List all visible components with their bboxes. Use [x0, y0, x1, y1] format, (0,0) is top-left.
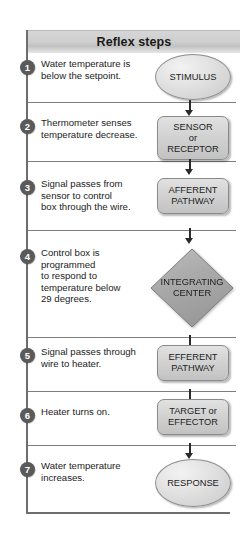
flow-shape-integrating-center-label: INTEGRATING CENTER — [148, 246, 236, 330]
row-separator-3 — [28, 230, 236, 231]
step-text-5-line-1: Signal passes through — [41, 346, 149, 358]
step-text-3-line-2: sensor to control — [41, 190, 149, 202]
flow-shape-efferent-pathway-line-2: PATHWAY — [171, 363, 215, 374]
flow-shape-sensor-receptor-line-3: RECEPTOR — [167, 144, 219, 155]
flow-shape-afferent-pathway-line-1: AFFERENT — [168, 185, 217, 196]
step-text-6: Heater turns on. — [41, 406, 149, 418]
step-text-4-line-2: programmed — [41, 259, 149, 271]
reflex-steps-diagram: Reflex steps 1 Water temperature is belo… — [0, 0, 248, 534]
step-text-3: Signal passes from sensor to control box… — [41, 178, 149, 213]
step-badge-2: 2 — [20, 119, 35, 134]
flow-shape-target-effector: TARGET or EFFECTOR — [157, 399, 229, 435]
step-badge-4: 4 — [20, 249, 35, 264]
step-badge-1: 1 — [20, 60, 35, 75]
frame-bottom-rail — [26, 512, 230, 514]
step-text-3-line-3: box through the wire. — [41, 201, 149, 213]
flow-shape-integrating-center: INTEGRATING CENTER — [148, 246, 236, 330]
step-badge-5: 5 — [20, 348, 35, 363]
step-text-2-line-1: Thermometer senses — [41, 117, 149, 129]
flow-shape-stimulus: STIMULUS — [155, 54, 231, 100]
step-text-4-line-3: to respond to — [41, 270, 149, 282]
flow-shape-sensor-receptor-line-2: or — [189, 133, 197, 144]
step-text-1: Water temperature is below the setpoint. — [41, 58, 149, 81]
step-text-1-line-1: Water temperature is — [41, 58, 149, 70]
flow-shape-target-effector-line-2: EFFECTOR — [168, 417, 218, 428]
arrow-stimulus-to-sensor — [185, 100, 194, 116]
step-text-5-line-2: wire to heater. — [41, 358, 149, 370]
step-text-3-line-1: Signal passes from — [41, 178, 149, 190]
step-badge-3: 3 — [20, 180, 35, 195]
flow-shape-integrating-center-line-2: CENTER — [173, 288, 211, 299]
flow-shape-target-effector-line-1: TARGET or — [169, 406, 217, 417]
step-text-7: Water temperature increases. — [41, 460, 149, 483]
flow-shape-efferent-pathway-line-1: EFFERENT — [168, 352, 217, 363]
arrow-afferent-to-integrating — [185, 228, 194, 244]
flow-shape-afferent-pathway: AFFERENT PATHWAY — [157, 178, 229, 214]
step-text-5: Signal passes through wire to heater. — [41, 346, 149, 369]
flow-shape-efferent-pathway: EFFERENT PATHWAY — [157, 345, 229, 381]
flow-shape-sensor-receptor: SENSOR or RECEPTOR — [157, 116, 229, 160]
arrow-sensor-to-afferent — [185, 159, 194, 175]
step-text-4-line-4: temperature below — [41, 282, 149, 294]
flow-shape-stimulus-label: STIMULUS — [169, 72, 216, 83]
page-title: Reflex steps — [28, 31, 240, 53]
step-text-4-line-1: Control box is — [41, 247, 149, 259]
header-bar: Reflex steps — [28, 30, 240, 53]
flow-shape-response: RESPONSE — [155, 459, 231, 507]
step-text-7-line-2: increases. — [41, 472, 149, 484]
row-separator-1 — [28, 102, 236, 103]
step-text-1-line-2: below the setpoint. — [41, 70, 149, 82]
step-text-4-line-5: 29 degrees. — [41, 293, 149, 305]
flow-shape-integrating-center-line-1: INTEGRATING — [161, 277, 224, 288]
flow-shape-sensor-receptor-line-1: SENSOR — [173, 122, 212, 133]
step-text-7-line-1: Water temperature — [41, 460, 149, 472]
row-separator-6 — [28, 445, 236, 446]
step-badge-7: 7 — [20, 462, 35, 477]
flow-shape-response-label: RESPONSE — [167, 478, 219, 489]
step-badge-6: 6 — [20, 408, 35, 423]
arrow-target-to-response — [185, 443, 194, 459]
step-text-6-line-1: Heater turns on. — [41, 406, 149, 418]
row-separator-4 — [28, 337, 236, 338]
step-text-2: Thermometer senses temperature decrease. — [41, 117, 149, 140]
row-separator-2 — [28, 161, 236, 162]
row-separator-5 — [28, 391, 236, 392]
step-text-2-line-2: temperature decrease. — [41, 129, 149, 141]
flow-shape-afferent-pathway-line-2: PATHWAY — [171, 196, 215, 207]
step-text-4: Control box is programmed to respond to … — [41, 247, 149, 305]
